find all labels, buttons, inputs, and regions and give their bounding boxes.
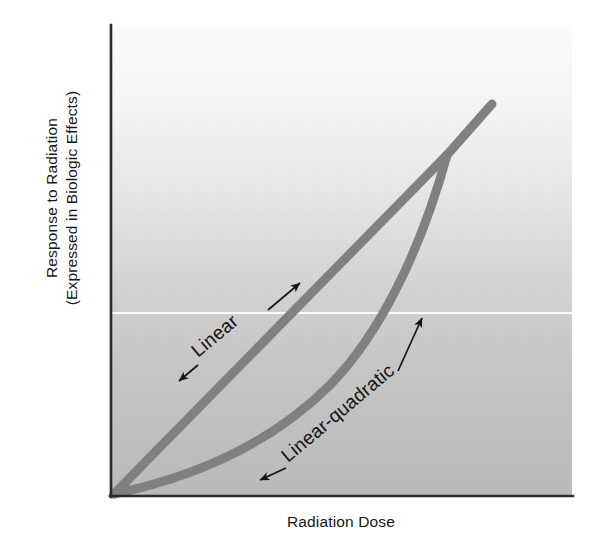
x-axis-title: Radiation Dose <box>110 513 572 531</box>
plot-area: Linear Linear-quadratic <box>0 0 597 543</box>
figure-container: Response to Radiation (Expressed in Biol… <box>0 0 597 543</box>
